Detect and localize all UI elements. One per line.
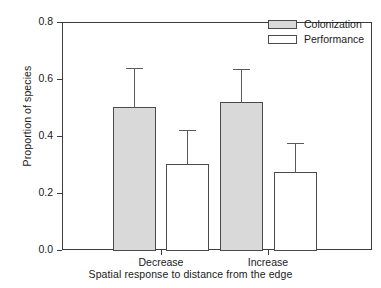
y-tick-mark [57,22,62,23]
y-tick-mark [57,136,62,137]
y-tick-label-0.8: 0.8 [38,15,53,27]
y-tick-mark [57,250,62,251]
legend-item-colonization: Colonization [268,17,364,31]
y-tick-mark [57,193,62,194]
y-tick-label-0.2: 0.2 [38,186,53,198]
legend-label-colonization: Colonization [304,18,362,30]
legend-item-performance: Performance [268,32,364,46]
x-tick-label-increase: Increase [248,256,288,268]
bar-performance-increase [274,172,317,251]
y-tick-mark [57,79,62,80]
bar-colonization-decrease [113,107,156,251]
y-axis-label: Proportion of species [21,26,33,206]
x-tick-mark-decrease [161,250,162,255]
x-tick-label-decrease: Decrease [139,256,184,268]
x-axis-label: Spatial response to distance from the ed… [0,268,381,280]
bar-chart-figure: Proportion of species 0.8 0.6 0.4 0.2 0.… [0,0,381,288]
y-tick-label-0.4: 0.4 [38,129,53,141]
y-tick-label-0.6: 0.6 [38,72,53,84]
legend-swatch-performance [268,35,297,44]
bar-performance-decrease [166,164,209,251]
chart-legend: Colonization Performance [268,17,364,47]
legend-swatch-colonization [268,20,297,29]
x-tick-mark-increase [268,250,269,255]
y-tick-label-0.0: 0.0 [38,243,53,255]
plot-area [62,22,372,250]
legend-label-performance: Performance [304,33,364,45]
bar-colonization-increase [220,102,263,251]
